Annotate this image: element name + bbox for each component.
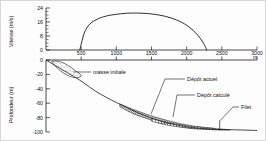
depth-y-tick-labels: 0-20-40-60-80-100 bbox=[33, 57, 44, 135]
x-tick-label: 1500 bbox=[146, 50, 158, 56]
initial-mass-body bbox=[52, 61, 82, 78]
leader-actual-deposit bbox=[151, 79, 185, 114]
annotation-actual-deposit: Dépôt actuel bbox=[187, 76, 217, 82]
depth-y-tick-label: -60 bbox=[36, 100, 44, 106]
annotation-computed-deposit: Dépôt calculé bbox=[197, 92, 230, 98]
depth-x-tick-labels: 50010001500200025003000 bbox=[77, 50, 263, 56]
figure-container: 081624 Vitesse (m/s) 5001000150020002500… bbox=[0, 0, 266, 141]
leader-net bbox=[220, 107, 239, 120]
velocity-panel: 081624 Vitesse (m/s) bbox=[8, 5, 257, 53]
x-tick-label: 500 bbox=[77, 50, 86, 56]
x-tick-label: 2500 bbox=[216, 50, 228, 56]
depth-y-tick-label: -80 bbox=[36, 115, 44, 121]
x-tick-label: 2000 bbox=[181, 50, 193, 56]
depth-y-tick-label: -20 bbox=[36, 71, 44, 77]
velocity-y-tick-label: 8 bbox=[40, 33, 43, 39]
depth-panel: 50010001500200025003000 0-20-40-60-80-10… bbox=[8, 47, 263, 135]
depth-y-tick-label: 0 bbox=[40, 57, 43, 63]
velocity-y-tick-labels: 081624 bbox=[37, 5, 43, 53]
annotation-initial-mass: masse initiale bbox=[93, 69, 126, 75]
figure-svg: 081624 Vitesse (m/s) 5001000150020002500… bbox=[1, 1, 266, 141]
depth-y-ticks bbox=[46, 60, 50, 132]
velocity-y-tick-label: 16 bbox=[37, 19, 43, 25]
depth-axis-label: Profondeur (m) bbox=[8, 87, 14, 123]
depth-x-ticks bbox=[81, 47, 257, 61]
velocity-axis-label: Vitesse (m/s) bbox=[8, 15, 14, 47]
annotation-net: Filet bbox=[241, 104, 252, 110]
velocity-y-ticks bbox=[46, 8, 50, 50]
velocity-y-tick-label: 24 bbox=[37, 5, 43, 11]
depth-y-tick-label: -40 bbox=[36, 86, 44, 92]
velocity-curve bbox=[80, 13, 207, 50]
depth-y-tick-label: -100 bbox=[33, 129, 43, 135]
leader-computed-deposit bbox=[173, 95, 195, 117]
x-axis-unit-label: m bbox=[253, 54, 257, 60]
x-tick-label: 1000 bbox=[111, 50, 123, 56]
velocity-y-tick-label: 0 bbox=[40, 47, 43, 53]
